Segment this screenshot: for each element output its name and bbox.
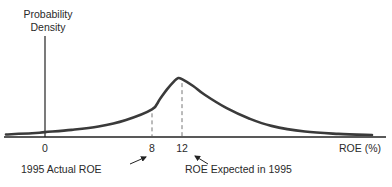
y-axis-label-line2: Density [30,21,66,33]
y-axis-label-line1: Probability [23,8,73,20]
annotation-expected-roe: ROE Expected in 1995 [185,163,292,175]
x-axis-label: ROE (%) [339,142,381,154]
x-tick-labels: 0812 [42,142,188,154]
density-curve [6,78,372,135]
x-tick-label-12: 12 [176,142,188,154]
roe-density-chart: Probability Density 0812 ROE (%) 1995 Ac… [0,0,392,187]
arrow-actual-roe [130,157,146,164]
x-tick-label-8: 8 [149,142,155,154]
x-tick-label-0: 0 [42,142,48,154]
annotation-actual-roe: 1995 Actual ROE [21,163,102,175]
density-curve-group [6,78,372,135]
